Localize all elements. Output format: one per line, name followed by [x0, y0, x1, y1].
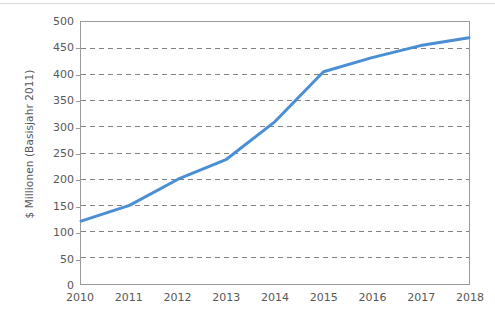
- y-axis-tick-label: 350: [32, 94, 74, 107]
- chart-figure: $ Millionen (Basisjahr 2011) 05010015020…: [0, 0, 495, 317]
- y-axis-tick-label: 0: [32, 279, 74, 292]
- y-axis-tick-label: 100: [32, 226, 74, 239]
- x-axis-tick-label: 2012: [164, 291, 192, 304]
- y-axis-tick-mark: [76, 207, 81, 208]
- y-axis-tick-label: 450: [32, 41, 74, 54]
- y-axis-tick-label: 250: [32, 147, 74, 160]
- x-axis-tick-label: 2010: [66, 291, 94, 304]
- x-axis-tick-label: 2013: [212, 291, 240, 304]
- y-axis-tick-labels: 050100150200250300350400450500: [26, 21, 74, 285]
- y-axis-tick-label: 50: [32, 252, 74, 265]
- x-axis-tick-label: 2017: [407, 291, 435, 304]
- x-axis-tick-label: 2015: [310, 291, 338, 304]
- top-divider: [0, 3, 495, 4]
- data-series-line: [81, 22, 469, 284]
- plot-area: [80, 21, 470, 285]
- y-axis-tick-mark: [76, 48, 81, 49]
- y-axis-tick-mark: [76, 75, 81, 76]
- y-axis-tick-label: 200: [32, 173, 74, 186]
- x-axis-tick-labels: 201020112012201320142015201620172018: [80, 291, 470, 309]
- y-axis-tick-mark: [76, 128, 81, 129]
- y-axis-tick-mark: [76, 233, 81, 234]
- x-axis-tick-label: 2011: [115, 291, 143, 304]
- x-axis-tick-label: 2014: [261, 291, 289, 304]
- y-axis-tick-label: 400: [32, 67, 74, 80]
- y-axis-tick-mark: [76, 180, 81, 181]
- y-axis-tick-mark: [76, 154, 81, 155]
- x-axis-tick-label: 2018: [456, 291, 484, 304]
- y-axis-tick-label: 500: [32, 15, 74, 28]
- y-axis-tick-mark: [76, 260, 81, 261]
- x-axis-tick-label: 2016: [359, 291, 387, 304]
- y-axis-tick-label: 150: [32, 199, 74, 212]
- y-axis-tick-label: 300: [32, 120, 74, 133]
- y-axis-tick-mark: [76, 101, 81, 102]
